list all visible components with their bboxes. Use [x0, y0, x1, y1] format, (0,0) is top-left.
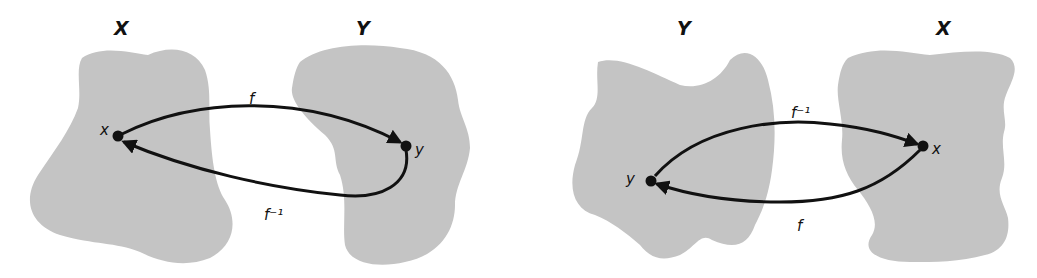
point-x: [113, 131, 124, 142]
set-y-region: [292, 45, 470, 265]
point-x-label-right: x: [931, 140, 941, 158]
point-x-label: x: [99, 121, 109, 139]
set-y-region-right: [572, 53, 774, 258]
inverse-function-diagram: X Y x y f f⁻¹ Y X y x f⁻¹ f: [0, 0, 1037, 278]
set-x-label-right: X: [935, 17, 952, 39]
arrow-f-inverse-label: f⁻¹: [264, 206, 283, 224]
point-y-label: y: [414, 141, 425, 159]
point-y-label-right: y: [625, 170, 636, 188]
point-x-right: [918, 141, 929, 152]
set-x-region-right: [838, 50, 1015, 262]
set-x-label: X: [113, 17, 130, 39]
arrow-f-label-right: f: [797, 217, 805, 235]
right-panel: Y X y x f⁻¹ f: [572, 17, 1014, 262]
arrow-f-inverse-label-right: f⁻¹: [791, 104, 810, 122]
point-y-right: [646, 176, 657, 187]
set-y-label: Y: [356, 17, 372, 39]
set-x-region: [30, 50, 233, 264]
point-y: [401, 141, 412, 152]
left-panel: X Y x y f f⁻¹: [30, 17, 470, 265]
set-y-label-right: Y: [677, 17, 693, 39]
